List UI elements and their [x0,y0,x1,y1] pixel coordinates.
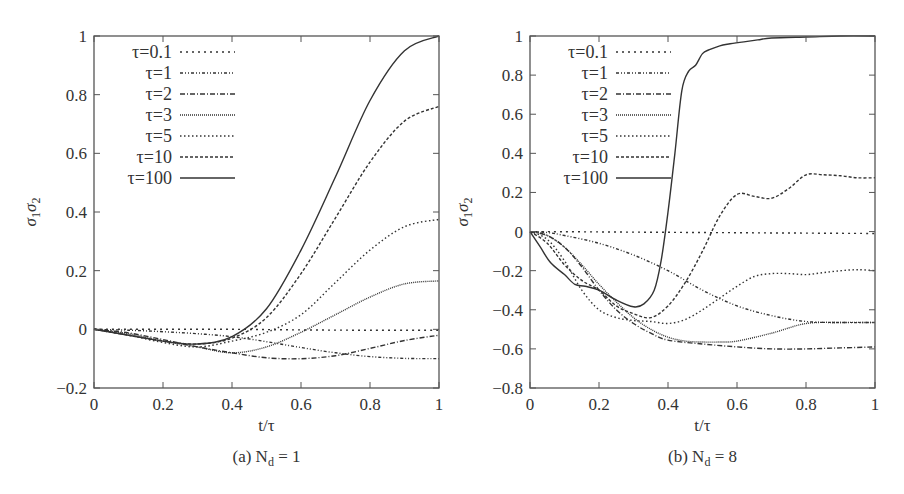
x-tick-label: 0.8 [795,395,816,414]
legend-label: τ=100 [564,168,608,188]
legend-label: τ=0.1 [132,42,172,62]
legend-label: τ=2 [146,84,172,104]
panel-b-legend: τ=0.1τ=1τ=2τ=3τ=5τ=10τ=100 [564,42,671,188]
panel-a-ylabel: σ1σ2 [21,198,43,227]
y-tick-label: 0.6 [502,105,523,124]
panel-a-legend: τ=0.1τ=1τ=2τ=3τ=5τ=10τ=100 [128,42,235,188]
x-tick-label: 0.2 [152,395,173,414]
x-tick-label: 0.4 [221,395,243,414]
y-tick-label: −0.6 [492,340,523,359]
legend-label: τ=0.1 [568,42,608,62]
panel-a-caption-main: (a) N [233,447,268,466]
panel-b-caption-main: (b) N [668,447,704,466]
series-line-4 [94,219,439,347]
legend-label: τ=5 [582,126,608,146]
legend-label: τ=3 [146,105,172,125]
series-line-4 [530,232,875,324]
panel-a-xlabel: t/τ [258,416,274,435]
y-tick-label: 0.8 [66,86,87,105]
y-tick-label: 0 [515,223,524,242]
y-tick-label: 0.4 [502,144,524,163]
x-tick-label: 0.6 [726,395,747,414]
x-tick-label: 1 [435,395,444,414]
legend-label: τ=100 [128,168,172,188]
y-tick-label: 0 [79,320,88,339]
legend-label: τ=10 [137,147,172,167]
panel-b-caption-tail: = 8 [710,447,737,466]
series-line-0 [94,329,439,330]
legend-label: τ=3 [582,105,608,125]
legend-label: τ=10 [573,147,608,167]
y-tick-label: 0.2 [66,262,87,281]
x-tick-label: 0.8 [359,395,380,414]
panel-b-ylabel-sub2: 2 [461,198,475,204]
series-line-1 [530,232,875,323]
y-tick-label: −0.4 [492,301,523,320]
x-tick-label: 0.6 [290,395,311,414]
legend-label: τ=2 [582,84,608,104]
y-tick-label: −0.8 [492,379,523,398]
series-line-5 [530,174,875,318]
panel-a-ylabel-sub2: 2 [29,198,43,204]
panel-b-caption: (b) Nd = 8 [668,447,737,469]
x-tick-label: 0 [526,395,535,414]
panel-a-caption-tail: = 1 [274,447,301,466]
series-line-2 [94,329,439,359]
panel-a-ticks: 00.20.40.60.81−0.200.20.40.60.81 [56,27,443,414]
legend-label: τ=5 [146,126,172,146]
x-tick-label: 1 [871,395,880,414]
x-tick-label: 0 [90,395,99,414]
panel-a-caption: (a) Nd = 1 [233,447,301,469]
series-line-3 [530,232,875,343]
legend-label: τ=1 [582,63,608,83]
y-tick-label: −0.2 [56,379,87,398]
y-tick-label: 0.8 [502,66,523,85]
panel-a: 00.20.40.60.81−0.200.20.40.60.81 τ=0.1τ=… [21,27,443,469]
y-tick-label: 1 [79,27,88,46]
series-line-0 [530,232,875,234]
y-tick-label: 0.6 [66,144,87,163]
y-tick-label: −0.2 [492,262,523,281]
y-tick-label: 0.2 [502,183,523,202]
panel-b-ylabel: σ1σ2 [453,198,475,227]
x-tick-label: 0.4 [657,395,679,414]
y-tick-label: 0.4 [66,203,88,222]
figure: 00.20.40.60.81−0.200.20.40.60.81 τ=0.1τ=… [0,0,904,494]
panel-b: 00.20.40.60.81−0.8−0.6−0.4−0.200.20.40.6… [453,27,879,469]
x-tick-label: 0.2 [588,395,609,414]
legend-label: τ=1 [146,63,172,83]
y-tick-label: 1 [515,27,524,46]
panel-b-ticks: 00.20.40.60.81−0.8−0.6−0.4−0.200.20.40.6… [492,27,879,414]
panel-b-xlabel: t/τ [694,416,710,435]
